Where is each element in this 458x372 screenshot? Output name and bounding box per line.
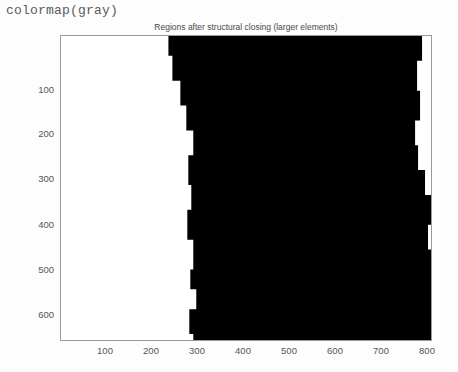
xtick-label-300: 300 [177, 345, 217, 356]
xtick-label-200: 200 [131, 345, 171, 356]
ytick-label-300: 300 [14, 173, 54, 184]
chart-title: Regions after structural closing (larger… [60, 22, 432, 32]
ytick-label-400: 400 [14, 219, 54, 230]
xtick-label-600: 600 [315, 345, 355, 356]
ytick-label-200: 200 [14, 128, 54, 139]
xtick-label-100: 100 [85, 345, 125, 356]
binary-mask-image [61, 36, 431, 340]
xtick-label-700: 700 [361, 345, 401, 356]
ytick-label-500: 500 [14, 264, 54, 275]
xtick-label-500: 500 [269, 345, 309, 356]
figure-panel: Regions after structural closing (larger… [0, 0, 458, 372]
xtick-label-400: 400 [223, 345, 263, 356]
xtick-label-800: 800 [407, 345, 447, 356]
ytick-label-100: 100 [14, 84, 54, 95]
ytick-label-600: 600 [14, 309, 54, 320]
mask-region-path [168, 36, 431, 340]
plot-area[interactable] [60, 35, 432, 341]
